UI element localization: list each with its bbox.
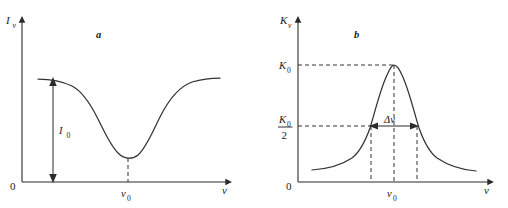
panel-b-peak-tick-label: K <box>278 60 287 71</box>
panel-b-x-tick-label-subscript: 0 <box>393 194 397 203</box>
panel-a-label: a <box>96 29 101 40</box>
panel-b-half-tick-numerator: K <box>278 114 287 125</box>
panel-b-x-tick-label: ν <box>387 188 392 199</box>
panel-b-width-label: Δν <box>383 114 395 125</box>
panel-a-y-axis-label: I <box>5 14 11 26</box>
panel-a-depth-label-subscript: 0 <box>67 131 71 140</box>
panel-a-x-tick-label-subscript: 0 <box>127 194 131 203</box>
panel-b-origin-label: 0 <box>286 180 292 192</box>
panel-a-origin-label: 0 <box>10 180 16 192</box>
panel-a-depth-arrow-head-top <box>49 77 57 86</box>
panel-b-half-tick-denominator: 2 <box>282 129 288 141</box>
spectral-line-figure: I 0 I ν ν 0 ν 0 a <box>0 0 508 208</box>
panel-a-absorption-curve <box>38 78 220 158</box>
panel-a-absorption-line: I 0 I ν ν 0 ν 0 a <box>0 0 254 208</box>
panel-b-absorption-coefficient: Δν K ν K 0 K 0 2 ν 0 ν 0 b <box>254 0 508 208</box>
panel-b-y-axis-label-subscript: ν <box>288 21 292 30</box>
panel-b-label: b <box>354 29 359 40</box>
panel-a-y-axis-label-subscript: ν <box>13 21 17 30</box>
panel-a-x-tick-label: ν <box>121 188 126 199</box>
panel-a-x-axis-label: ν <box>222 184 227 196</box>
panel-b-peak-tick-label-subscript: 0 <box>287 66 291 75</box>
panel-a-depth-label: I <box>58 125 63 136</box>
panel-b-x-axis-label: ν <box>484 184 489 196</box>
panel-b-y-axis-label: K <box>279 14 288 26</box>
